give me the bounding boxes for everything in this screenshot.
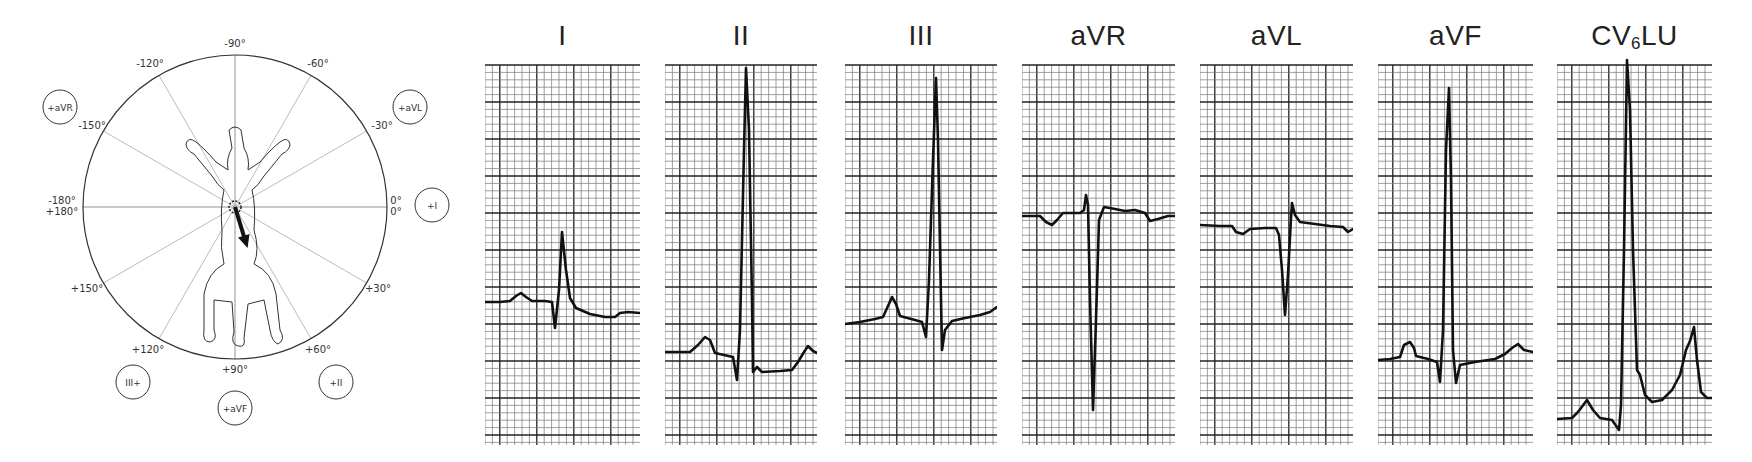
ecg-trace [485,232,640,328]
angle-label: +180° [46,206,78,217]
ecg-grid [1200,0,1353,462]
lead-avr: aVR [1022,0,1175,462]
angle-label: -90° [224,38,245,49]
ecg-trace [1022,195,1175,410]
lead-marker: +II [319,365,353,399]
angle-label: -180° [48,195,76,206]
dog-silhouette [186,127,290,346]
lead-iii: III [845,0,997,462]
ecg-trace [1200,203,1353,315]
svg-text:+aVF: +aVF [223,404,247,414]
ecg-grid [485,0,640,462]
lead-marker: +I [415,188,449,222]
lead-avl: aVL [1200,0,1353,462]
angle-label: -30° [371,120,392,131]
lead-marker: +aVF [218,391,252,425]
lead-i: I [485,0,640,462]
ecg-grid [1022,0,1175,462]
angle-label: +60° [305,344,331,355]
ecg-trace [1557,60,1712,430]
lead-marker: +aVR [43,90,77,124]
svg-text:+II: +II [330,378,343,388]
angle-label: +30° [365,283,391,294]
angle-label: +120° [132,344,164,355]
lead-ii: II [665,0,817,462]
ecg-trace [665,68,817,380]
lead-cv6lu: CV6LU [1557,0,1712,462]
svg-text:+aVR: +aVR [47,103,72,113]
lead-marker: +aVL [393,90,427,124]
angle-label: 0° [390,195,401,206]
svg-text:III+: III+ [125,378,141,388]
angle-label: 0° [390,206,401,217]
angle-labels: -90°-120°-60°-150°-30°-180°+180°0°0°+150… [46,38,402,375]
angle-label: -60° [307,58,328,69]
ecg-grid [1378,0,1533,462]
angle-label: +150° [71,283,103,294]
angle-label: +90° [222,364,248,375]
lead-marker: III+ [116,365,150,399]
ecg-grid [665,0,817,462]
ecg-grid [845,0,997,462]
lead-avf: aVF [1378,0,1533,462]
svg-text:+I: +I [427,201,437,211]
hexaxial-lead-diagram: -90°-120°-60°-150°-30°-180°+180°0°0°+150… [0,0,470,462]
svg-text:+aVL: +aVL [398,103,422,113]
ecg-grid [1557,0,1712,462]
mean-axis-arrow-icon [235,207,250,248]
angle-label: -120° [136,58,164,69]
angle-label: -150° [78,120,106,131]
